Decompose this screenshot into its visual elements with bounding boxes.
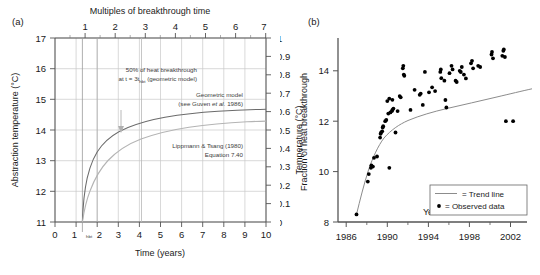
data-point — [490, 50, 494, 54]
panel-a-right-tick-0: 0 — [280, 217, 282, 228]
data-point — [455, 80, 459, 84]
panel-a-right-tick-0.9: 0.9 — [280, 51, 290, 62]
data-point — [401, 64, 405, 68]
annotation-breakthrough-post: (geometric model) — [145, 75, 197, 82]
geometric-model-curve — [82, 109, 266, 222]
thbt-marker-label: hbt — [86, 234, 93, 239]
data-point — [371, 165, 375, 169]
data-point — [503, 55, 507, 59]
panel-a-bottom-tick-4: 4 — [137, 229, 142, 240]
panel-a-right-tick-0.8: 0.8 — [280, 69, 290, 80]
panel-a-bottom-tick-2: 2 — [97, 229, 102, 240]
data-point — [421, 103, 425, 107]
panel-a: (a) Multiples of breakthrough time — [0, 0, 280, 275]
panel-b-x-ticks: 1986 1990 1994 1998 2002 — [336, 222, 521, 242]
panel-b-x-tick-2002: 2002 — [500, 231, 521, 242]
panel-a-bottom-axis-title: Time (years) — [135, 248, 185, 258]
legend-trend-line-label: = Trend line — [462, 190, 505, 199]
data-point — [380, 129, 384, 133]
data-point — [384, 118, 388, 122]
data-point — [448, 71, 452, 75]
data-point — [378, 136, 382, 140]
panel-b-y-axis-title: Temperature (°C) — [294, 105, 304, 174]
panel-a-right-tick-0.5: 0.5 — [280, 125, 290, 136]
data-point — [478, 65, 482, 69]
data-point — [445, 106, 449, 110]
data-point — [402, 74, 406, 78]
panel-a-right-tick-0.7: 0.7 — [280, 88, 290, 99]
annotation-geometric-line1: Geometric model — [196, 91, 243, 98]
panel-b-x-tick-1994: 1994 — [418, 231, 439, 242]
panel-b: 1 0.9 0.8 0.7 0.6 0.5 0.4 0.3 0.2 0.1 0 … — [280, 0, 540, 275]
panel-a-bottom-tick-9: 9 — [242, 229, 247, 240]
annotation-breakthrough-pre: at t = 3t — [118, 75, 139, 82]
legend-dot-icon — [437, 204, 441, 208]
data-point — [413, 88, 417, 92]
data-point — [387, 166, 391, 170]
panel-b-y-ticks: 8 10 12 14 — [318, 65, 338, 227]
panel-b-x-tick-1990: 1990 — [377, 231, 398, 242]
annotation-lippmann-line2: Equation 7.40 — [205, 151, 244, 158]
panel-b-x-tick-1986: 1986 — [336, 231, 357, 242]
data-point — [464, 77, 468, 81]
lippmann-tsang-curve — [82, 121, 266, 222]
data-point — [381, 124, 385, 128]
data-point — [433, 89, 437, 93]
data-point — [419, 92, 423, 96]
panel-a-right-tick-0.3: 0.3 — [280, 161, 290, 172]
data-point — [375, 155, 379, 159]
panel-a-right-tick-0.6: 0.6 — [280, 106, 290, 117]
annotation-breakthrough-line2: at t = 3thbt (geometric model) — [118, 75, 197, 84]
data-point — [502, 48, 506, 52]
panel-b-y-tick-14: 14 — [318, 65, 329, 76]
panel-b-y-tick-12: 12 — [318, 116, 329, 127]
data-point — [450, 64, 454, 68]
panel-a-bottom-tick-3: 3 — [116, 229, 121, 240]
panel-b-y-tick-8: 8 — [324, 217, 329, 228]
panel-a-right-tick-0.4: 0.4 — [280, 143, 290, 154]
panel-a-right-tick-labels: 1 0.9 0.8 0.7 0.6 0.5 0.4 0.3 0.2 0.1 0 — [280, 33, 290, 228]
annotation-lippmann-line1: Lippmann & Tsang (1980) — [172, 142, 243, 149]
panel-b-y-tick-10: 10 — [318, 166, 329, 177]
panel-b-svg: 1 0.9 0.8 0.7 0.6 0.5 0.4 0.3 0.2 0.1 0 … — [280, 0, 540, 275]
data-point — [443, 79, 447, 83]
annotation-geometric-pre: (see Guven — [178, 100, 212, 107]
legend-observed-data-label: = Observed data — [445, 202, 505, 211]
data-point — [444, 98, 448, 102]
panel-a-right-tick-1: 1 — [280, 33, 282, 44]
data-point — [394, 131, 398, 135]
data-point — [396, 109, 400, 113]
panel-b-legend: = Trend line = Observed data — [430, 185, 527, 215]
data-point — [439, 76, 443, 80]
panel-b-label: (b) — [308, 16, 320, 27]
panel-b-x-tick-1998: 1998 — [459, 231, 480, 242]
panel-a-bottom-tick-1: 1 — [72, 229, 77, 240]
data-point — [367, 172, 371, 176]
data-point — [392, 107, 396, 111]
data-point — [511, 119, 515, 123]
data-point — [471, 66, 475, 70]
data-point — [399, 95, 403, 99]
data-point — [504, 119, 508, 123]
panel-a-curves-overlay: 50% of heat breakthrough at t = 3thbt (g… — [0, 0, 280, 275]
annotation-geometric-italic: et al. — [212, 100, 225, 107]
panel-a-right-tick-0.1: 0.1 — [280, 198, 290, 209]
panel-a-bottom-tick-0: 0 — [52, 229, 57, 240]
data-point — [366, 180, 370, 184]
data-point — [459, 70, 463, 74]
figure-container: (a) Multiples of breakthrough time — [0, 0, 540, 275]
panel-a-bottom-tick-5: 5 — [158, 229, 163, 240]
annotation-geometric-line2: (see Guven et al. 1986) — [178, 100, 243, 107]
panel-a-right-tick-0.2: 0.2 — [280, 180, 290, 191]
panel-a-bottom-tick-8: 8 — [221, 229, 226, 240]
data-point — [439, 68, 443, 72]
data-point — [470, 59, 474, 63]
data-point — [409, 108, 413, 112]
panel-a-bottom-tick-6: 6 — [179, 229, 184, 240]
data-point — [355, 213, 359, 217]
panel-a-bottom-tick-10: 10 — [261, 229, 272, 240]
data-point — [451, 68, 455, 72]
panel-a-bottom-tick-7: 7 — [200, 229, 205, 240]
data-point — [430, 85, 434, 89]
data-point — [460, 65, 464, 69]
